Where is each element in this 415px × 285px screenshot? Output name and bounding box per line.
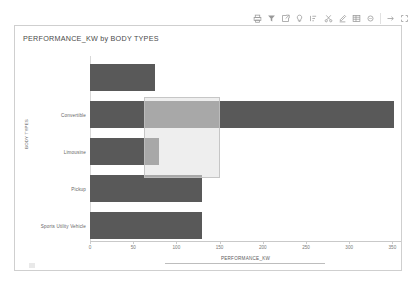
cut-icon[interactable] bbox=[322, 12, 333, 25]
y-axis-labels: Convertible Limousine Pickup Sports Util… bbox=[39, 56, 88, 241]
filter-icon[interactable] bbox=[266, 12, 277, 25]
plot-area[interactable] bbox=[90, 56, 401, 241]
expand-icon[interactable] bbox=[399, 12, 410, 25]
x-axis-tick-mark bbox=[176, 242, 177, 244]
bulb-icon[interactable] bbox=[294, 12, 305, 25]
bar-row[interactable] bbox=[90, 138, 401, 165]
bar-row[interactable] bbox=[90, 175, 401, 202]
chart-visual-container[interactable]: PERFORMANCE_KW by BODY TYPES BODY TYPES … bbox=[14, 25, 402, 271]
bar-row[interactable] bbox=[90, 64, 401, 91]
toolbar-divider bbox=[380, 13, 381, 24]
bar-convertible[interactable] bbox=[90, 101, 394, 128]
x-axis-tick-mark bbox=[220, 242, 221, 244]
x-axis-underline bbox=[165, 263, 325, 264]
x-axis-tick-mark bbox=[392, 242, 393, 244]
more-options-icon[interactable] bbox=[365, 12, 376, 25]
visual-header-toolbar[interactable] bbox=[252, 12, 410, 25]
y-axis-title: BODY TYPES bbox=[24, 119, 29, 149]
chart-title: PERFORMANCE_KW by BODY TYPES bbox=[23, 34, 159, 43]
y-axis-label-convertible: Convertible bbox=[61, 112, 86, 117]
y-axis-label-limousine: Limousine bbox=[64, 149, 86, 154]
focus-mode-icon[interactable] bbox=[385, 12, 396, 25]
edit-icon[interactable] bbox=[337, 12, 348, 25]
bar-row[interactable] bbox=[90, 212, 401, 239]
x-axis-tick-label: 150 bbox=[216, 245, 224, 250]
bar-row[interactable] bbox=[90, 101, 401, 128]
report-canvas: PERFORMANCE_KW by BODY TYPES BODY TYPES … bbox=[0, 0, 415, 285]
bar-sports-utility-vehicle[interactable] bbox=[90, 212, 202, 239]
bar-pickup[interactable] bbox=[90, 175, 202, 202]
export-icon[interactable] bbox=[280, 12, 291, 25]
bars-layer bbox=[90, 56, 401, 241]
x-axis-tick-label: 50 bbox=[131, 245, 136, 250]
x-axis-title: PERFORMANCE_KW bbox=[90, 256, 401, 261]
bar-limousine[interactable] bbox=[90, 138, 159, 165]
x-axis-tick-mark bbox=[349, 242, 350, 244]
x-axis-ticks: 050100150200250300350 bbox=[90, 242, 401, 254]
print-icon[interactable] bbox=[252, 12, 263, 25]
y-axis-label-pickup: Pickup bbox=[71, 186, 86, 191]
x-axis-tick-label: 100 bbox=[173, 245, 181, 250]
x-axis-tick-label: 0 bbox=[89, 245, 92, 250]
x-axis-tick-label: 250 bbox=[302, 245, 310, 250]
y-axis-label-sports-utility-vehicle: Sports Utility Vehicle bbox=[41, 223, 86, 228]
sort-icon[interactable] bbox=[308, 12, 319, 25]
x-axis-tick-mark bbox=[133, 242, 134, 244]
x-axis-tick-mark bbox=[263, 242, 264, 244]
x-axis-tick-label: 300 bbox=[345, 245, 353, 250]
table-icon[interactable] bbox=[351, 12, 362, 25]
x-axis-tick-label: 350 bbox=[389, 245, 397, 250]
x-axis-tick-mark bbox=[306, 242, 307, 244]
scroll-nub[interactable] bbox=[29, 263, 35, 268]
x-axis-tick-mark bbox=[90, 242, 91, 244]
bar-0[interactable] bbox=[90, 64, 155, 91]
x-axis-tick-label: 200 bbox=[259, 245, 267, 250]
